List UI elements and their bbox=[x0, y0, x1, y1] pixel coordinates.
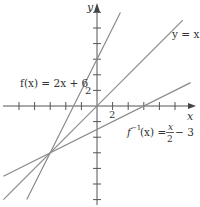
svg-text:x: x bbox=[168, 122, 173, 132]
svg-text:(x) =: (x) = bbox=[140, 126, 166, 138]
svg-text:2: 2 bbox=[167, 134, 173, 144]
x-tick-label-2: 2 bbox=[109, 109, 115, 120]
line-identity bbox=[3, 20, 182, 199]
x-axis-label: x bbox=[187, 110, 194, 123]
y-axis-arrow-icon bbox=[94, 3, 100, 12]
svg-text:− 3: − 3 bbox=[175, 126, 194, 138]
inverse-label: f −1 (x) = x 2 − 3 bbox=[126, 122, 194, 144]
identity-label: y = x bbox=[171, 28, 199, 40]
f-label: f(x) = 2x + 6 bbox=[20, 77, 89, 89]
function-graph: y x 2 2 f(x) = 2x + 6 y = x f −1 (x) = x… bbox=[0, 0, 200, 207]
y-axis-label: y bbox=[86, 1, 94, 14]
x-axis-arrow-icon bbox=[188, 103, 196, 109]
